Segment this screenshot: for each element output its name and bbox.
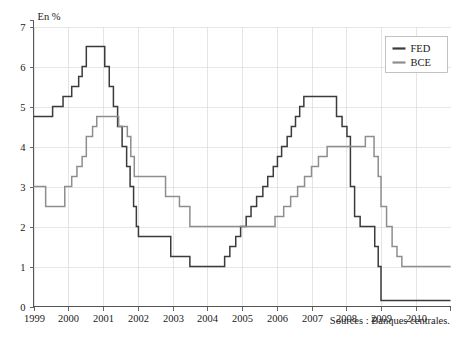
chart-legend: FEDBCE — [386, 37, 448, 73]
x-tick-label: 2002 — [128, 313, 149, 324]
y-tick-label: 1 — [20, 262, 25, 273]
y-tick-label: 6 — [20, 62, 25, 73]
x-tick-label: 2000 — [58, 313, 79, 324]
x-tick-label: 2004 — [197, 313, 219, 324]
legend-label-fed: FED — [411, 43, 431, 54]
series-line-fed — [34, 47, 451, 301]
x-tick-label: 1999 — [24, 313, 45, 324]
legend-label-bce: BCE — [411, 57, 431, 68]
rate-line-chart: 01234567En %1999200020012002200320042005… — [0, 0, 455, 346]
y-tick-label: 3 — [20, 182, 25, 193]
y-tick-label: 2 — [20, 222, 25, 233]
y-axis-unit-label: En % — [38, 11, 61, 22]
x-tick-label: 2001 — [93, 313, 114, 324]
series-line-bce — [34, 117, 451, 267]
y-tick-label: 7 — [20, 22, 25, 33]
data-series — [34, 47, 451, 301]
x-tick-label: 2006 — [267, 313, 288, 324]
x-tick-label: 2005 — [232, 313, 253, 324]
y-tick-label: 0 — [20, 302, 25, 313]
y-tick-label: 4 — [20, 142, 26, 153]
x-tick-label: 2007 — [302, 313, 323, 324]
source-note: Sources : Banques centrales. — [330, 315, 450, 326]
y-tick-label: 5 — [20, 102, 25, 113]
x-tick-label: 2003 — [163, 313, 184, 324]
chart-container: 01234567En %1999200020012002200320042005… — [0, 0, 455, 346]
